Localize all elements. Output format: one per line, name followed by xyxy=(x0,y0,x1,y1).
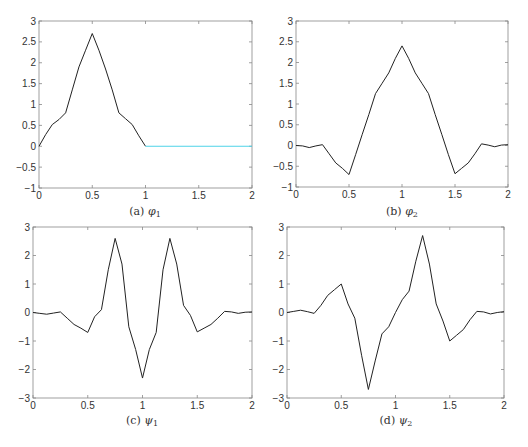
caption-a-symbol: φ xyxy=(148,205,156,218)
y-tick-label: 0 xyxy=(287,140,293,151)
y-tick-label: −3 xyxy=(19,393,31,404)
y-tick-label: 2.5 xyxy=(22,36,36,47)
x-tick-label: 1 xyxy=(399,189,405,200)
y-tick-label: 0 xyxy=(30,141,36,152)
y-tick-label: −2 xyxy=(19,364,31,375)
figure: 00.511.52−1−0.500.511.522.53 00.511.52−1… xyxy=(0,0,528,447)
y-tick-label: 1 xyxy=(30,99,36,110)
panel-d-psi2: 00.511.52−3−2−10123 xyxy=(273,222,508,412)
caption-d-prefix: (d) xyxy=(380,414,396,427)
y-tick-label: 0 xyxy=(24,307,30,318)
x-tick-label: 0.5 xyxy=(334,400,348,411)
y-tick-label: −1 xyxy=(19,336,31,347)
caption-b-sub: 2 xyxy=(413,210,418,219)
x-tick-label: 1 xyxy=(143,190,149,201)
y-tick-label: −0.5 xyxy=(16,162,36,173)
y-tick-label: −2 xyxy=(273,364,285,375)
caption-c-prefix: (c) xyxy=(126,414,141,427)
caption-a-sub: 1 xyxy=(156,210,161,219)
x-tick-label: 0.5 xyxy=(85,190,99,201)
y-tick-label: −1 xyxy=(273,336,285,347)
y-tick-label: −3 xyxy=(273,393,285,404)
curve-line xyxy=(33,238,252,378)
x-tick-label: 0 xyxy=(293,189,299,200)
x-tick-label: 0.5 xyxy=(81,400,95,411)
x-tick-label: 2 xyxy=(501,400,507,411)
panel-a-phi1: 00.511.52−1−0.500.511.522.53 xyxy=(16,16,255,202)
x-tick-label: 1.5 xyxy=(192,190,206,201)
y-tick-label: −1 xyxy=(25,183,37,194)
y-tick-label: 2 xyxy=(24,250,30,261)
caption-c-symbol: ψ xyxy=(144,414,153,427)
caption-d: (d) ψ2 xyxy=(346,414,446,428)
panel-c-psi1: 00.511.52−3−2−10123 xyxy=(19,222,256,412)
panel-b-phi2: 00.511.52−1−0.500.511.522.53 xyxy=(273,16,511,201)
caption-a-prefix: (a) xyxy=(129,205,144,218)
y-tick-label: 2 xyxy=(287,57,293,68)
y-tick-label: 0.5 xyxy=(22,120,36,131)
caption-c: (c) ψ1 xyxy=(92,414,192,428)
curve-line xyxy=(296,46,508,175)
y-tick-label: 2 xyxy=(30,57,36,68)
y-tick-label: 1.5 xyxy=(279,78,293,89)
y-tick-label: 3 xyxy=(24,222,30,233)
caption-d-sub: 2 xyxy=(407,419,412,428)
caption-a: (a) φ1 xyxy=(95,205,195,219)
x-tick-label: 2 xyxy=(249,400,255,411)
y-tick-label: 3 xyxy=(30,16,36,27)
caption-c-sub: 1 xyxy=(153,419,158,428)
curve-line xyxy=(39,34,146,147)
y-tick-label: 2.5 xyxy=(279,36,293,47)
y-tick-label: −1 xyxy=(282,182,294,193)
caption-b: (b) φ2 xyxy=(352,205,452,219)
caption-b-prefix: (b) xyxy=(386,205,402,218)
x-tick-label: 1.5 xyxy=(443,400,457,411)
x-tick-label: 1.5 xyxy=(190,400,204,411)
y-tick-label: 2 xyxy=(278,250,284,261)
x-tick-label: 1 xyxy=(393,400,399,411)
y-tick-label: 3 xyxy=(287,16,293,27)
y-tick-label: 1 xyxy=(278,279,284,290)
x-tick-label: 2 xyxy=(505,189,511,200)
curve-line xyxy=(287,236,504,390)
x-tick-label: 0.5 xyxy=(342,189,356,200)
y-tick-label: 1 xyxy=(24,279,30,290)
caption-b-symbol: φ xyxy=(405,205,413,218)
axes-box xyxy=(39,21,252,188)
x-tick-label: 0 xyxy=(36,190,42,201)
axes-box xyxy=(33,227,252,398)
x-tick-label: 0 xyxy=(30,400,36,411)
y-tick-label: 1.5 xyxy=(22,78,36,89)
x-tick-label: 0 xyxy=(284,400,290,411)
y-tick-label: 1 xyxy=(287,99,293,110)
x-tick-label: 1 xyxy=(140,400,146,411)
y-tick-label: 3 xyxy=(278,222,284,233)
y-tick-label: 0 xyxy=(278,307,284,318)
x-tick-label: 2 xyxy=(249,190,255,201)
y-tick-label: 0.5 xyxy=(279,119,293,130)
x-tick-label: 1.5 xyxy=(448,189,462,200)
y-tick-label: −0.5 xyxy=(273,161,293,172)
